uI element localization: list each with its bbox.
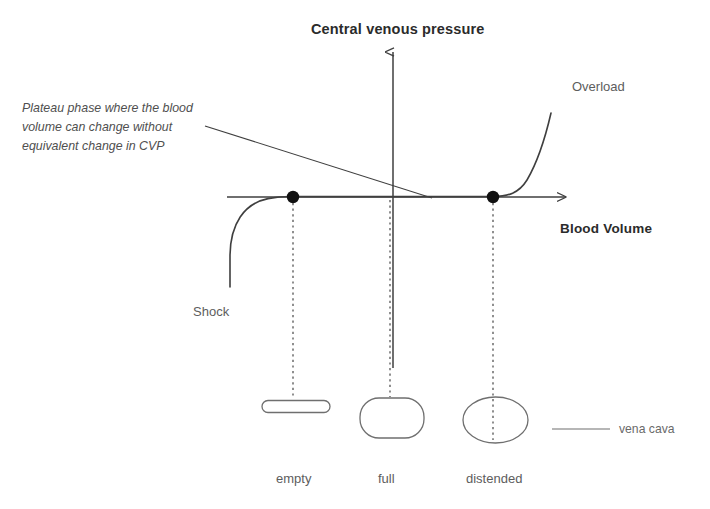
vessel-label-full: full [378,470,395,487]
cvp-blood-volume-diagram [0,0,710,509]
vessel-label-distended: distended [466,470,522,487]
vessel-label-empty: empty [276,470,311,487]
vena-cava-distended-shape [463,397,528,443]
vena-cava-full-shape [360,398,424,438]
vena-cava-label: vena cava [619,421,675,437]
plateau-note-line-2: volume can change without [22,118,172,137]
plateau-note-line-3: equivalent change in CVP [22,137,165,156]
shock-label: Shock [193,303,229,320]
plateau-leader-line [205,126,432,198]
plateau-note-line-1: Plateau phase where the blood [22,99,193,118]
vena-cava-empty-shape [262,401,330,413]
y-axis-label: Central venous pressure [311,20,485,39]
marker-dot-empty [287,191,299,203]
diagram-canvas: Central venous pressure Blood Volume Pla… [0,0,710,509]
marker-dot-distended [487,191,499,203]
x-axis-label: Blood Volume [560,220,652,238]
overload-label: Overload [572,78,625,95]
